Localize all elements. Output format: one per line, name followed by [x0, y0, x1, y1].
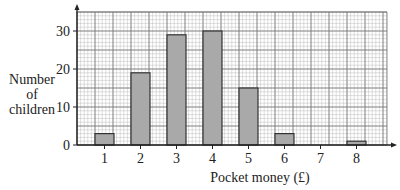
bar-6: [275, 134, 294, 145]
bar-3: [167, 35, 186, 145]
x-tick-label: 1: [101, 151, 108, 166]
y-axis-arrow-icon: [75, 4, 80, 10]
y-axis-label-line-2: of: [2, 87, 62, 102]
bar-1: [95, 134, 114, 145]
x-tick-label: 7: [317, 151, 324, 166]
bar-4: [203, 31, 222, 145]
y-axis-label-line-3: children: [2, 102, 62, 117]
y-axis-label-line-1: Number: [2, 72, 62, 87]
x-tick-label: 6: [281, 151, 288, 166]
x-axis-label: Pocket money (£): [180, 170, 340, 185]
x-tick-label: 2: [137, 151, 144, 166]
x-tick-label: 4: [209, 151, 216, 166]
y-tick-label: 0: [63, 138, 70, 153]
bar-2: [131, 73, 150, 145]
bar-5: [239, 88, 258, 145]
x-tick-label: 3: [173, 151, 180, 166]
x-tick-label: 8: [353, 151, 360, 166]
x-axis-arrow-icon: [391, 143, 397, 148]
y-tick-label: 30: [56, 24, 70, 39]
x-tick-label: 5: [245, 151, 252, 166]
